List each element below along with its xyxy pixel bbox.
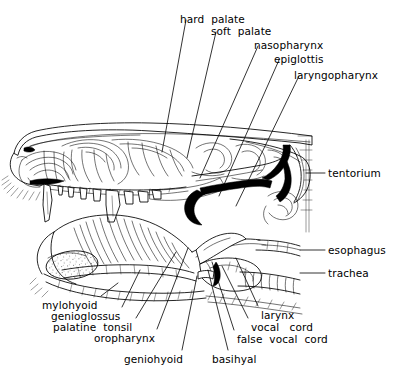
label-laryngopharynx: laryngopharynx <box>294 70 378 81</box>
label-larynx: larynx <box>261 310 294 321</box>
leader-false-vocal-cord <box>212 262 234 330</box>
label-tentorium: tentorium <box>328 168 381 179</box>
label-soft-palate: soft palate <box>211 26 271 37</box>
label-oropharynx: oropharynx <box>94 333 155 344</box>
label-geniohyoid: geniohyoid <box>124 354 183 365</box>
label-epiglottis: epiglottis <box>274 54 324 65</box>
label-vocal-cord: vocal cord <box>251 322 313 333</box>
leader-soft-palate <box>187 32 216 158</box>
label-esophagus: esophagus <box>328 245 386 256</box>
leader-palatine-tonsil <box>136 252 176 318</box>
esophagus <box>256 240 300 256</box>
basihyal <box>198 271 214 280</box>
anatomy-figure: .ln { fill:none; stroke:#000; stroke-wid… <box>0 0 400 381</box>
label-hard-palate: hard palate <box>180 14 245 25</box>
leader-nasopharynx <box>200 46 258 178</box>
leader-genioglossus <box>122 270 140 307</box>
label-trachea: trachea <box>328 268 369 279</box>
trachea <box>206 272 302 314</box>
label-false-vocal-cord: false vocal cord <box>237 334 328 345</box>
chin-skin-hatching <box>30 278 48 297</box>
leader-oropharynx <box>157 248 188 329</box>
palatine-tonsil <box>45 248 100 281</box>
label-nasopharynx: nasopharynx <box>254 40 323 51</box>
epiglottis <box>196 233 246 264</box>
label-basihyal: basihyal <box>212 354 257 365</box>
leader-vocal-cord <box>222 266 248 318</box>
caudal-margin-hatching <box>298 136 312 232</box>
leader-geniohyoid <box>182 276 197 350</box>
